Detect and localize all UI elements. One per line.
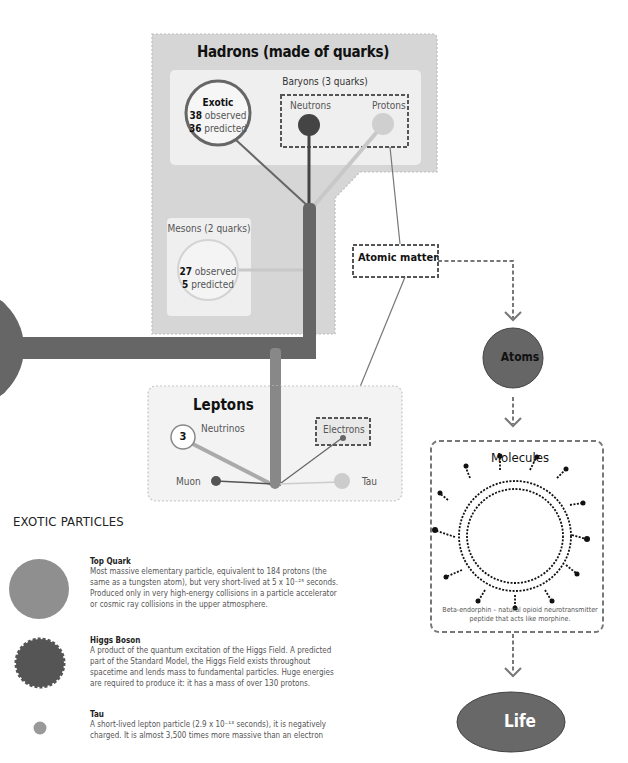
- higgs-boson-icon: [16, 639, 64, 687]
- neutrons-label: Neutrons: [290, 100, 331, 111]
- leptons-title: Leptons: [193, 396, 254, 414]
- mesons-stats: 27 observed 5 predicted: [172, 265, 244, 291]
- neutrinos-count: 3: [171, 430, 195, 443]
- exotic-particles-heading: EXOTIC PARTICLES: [13, 514, 124, 529]
- molecule-caption: Beta-endorphin – natural opioid neurotra…: [436, 606, 604, 624]
- top-quark-name: Top Quark: [90, 557, 131, 566]
- neutrinos-label: Neutrinos: [201, 423, 245, 434]
- exotic-baryon-stats: Exotic 38 observed 36 predicted: [180, 96, 256, 135]
- neutron-circle: [298, 114, 320, 136]
- top-quark-description: Most massive elementary particle, equiva…: [90, 566, 345, 610]
- electron-dot: [340, 435, 346, 441]
- tau-particle-name: Tau: [90, 710, 104, 719]
- electrons-label: Electrons: [323, 424, 365, 435]
- muon-circle: [211, 476, 221, 486]
- exotic-observed-count: 38: [189, 110, 202, 121]
- protons-label: Protons: [372, 100, 406, 111]
- tau-label: Tau: [362, 476, 377, 487]
- mesons-label: Mesons (2 quarks): [166, 223, 252, 234]
- molecules-title: Molecules: [430, 450, 610, 465]
- exotic-observed-label: observed: [202, 110, 247, 121]
- top-quark-icon: [9, 559, 69, 619]
- tau-icon: [34, 722, 47, 735]
- exotic-title: Exotic: [203, 97, 234, 108]
- atoms-label: Atoms: [482, 350, 558, 364]
- exotic-predicted-count: 36: [189, 123, 202, 134]
- life-label: Life: [456, 711, 584, 731]
- mesons-predicted-label: predicted: [188, 279, 234, 290]
- tau-particle-description: A short-lived lepton particle (2.9 x 10⁻…: [90, 719, 345, 741]
- hadrons-title: Hadrons (made of quarks): [148, 43, 438, 61]
- tau-circle: [334, 473, 350, 489]
- mesons-observed-count: 27: [179, 266, 192, 277]
- atomic-matter-label: Atomic matter: [356, 251, 440, 264]
- mesons-observed-label: observed: [192, 266, 237, 277]
- higgs-boson-name: Higgs Boson: [90, 636, 140, 645]
- exotic-predicted-label: predicted: [202, 123, 248, 134]
- muon-label: Muon: [176, 476, 201, 487]
- proton-circle: [372, 113, 394, 135]
- baryons-label: Baryons (3 quarks): [255, 76, 395, 87]
- higgs-boson-description: A product of the quantum excitation of t…: [90, 645, 345, 689]
